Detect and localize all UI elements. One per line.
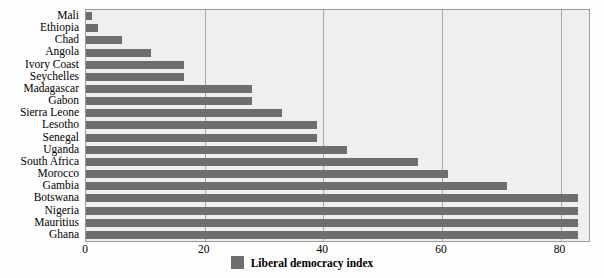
bar [86,85,252,93]
bar-row [86,95,589,107]
bar [86,12,92,20]
chart-legend: Liberal democracy index [0,256,604,269]
category-label: Senegal [43,131,79,143]
bar-row [86,132,589,144]
plot-area [85,9,590,242]
bar-row [86,119,589,131]
bar-row [86,217,589,229]
bar-row [86,107,589,119]
category-label: Chad [55,33,79,45]
category-label: Angola [45,45,79,57]
bar [86,207,578,215]
category-label: Mali [57,9,79,21]
category-label: Seychelles [30,70,79,82]
bar [86,182,507,190]
bar [86,97,252,105]
bar-row [86,205,589,217]
category-label: Sierra Leone [20,106,79,118]
category-label: Botswana [34,191,79,203]
category-label: Gambia [43,179,79,191]
category-label: South Africa [21,155,79,167]
bar [86,231,578,239]
bar-row [86,180,589,192]
bar [86,61,184,69]
bar-row [86,59,589,71]
category-label: Ghana [49,228,79,240]
bar-row [86,144,589,156]
category-label: Ethiopia [40,21,79,33]
bar [86,49,151,57]
category-label: Gabon [48,94,79,106]
bar [86,24,98,32]
category-label: Madagascar [23,82,79,94]
category-label: Mauritius [34,216,79,228]
bar-row [86,229,589,241]
bar [86,121,317,129]
liberal-democracy-index-bar-chart: MaliEthiopiaChadAngolaIvory CoastSeychel… [0,0,604,278]
category-label: Morocco [37,167,79,179]
x-tick-80: 80 [554,243,566,255]
bar [86,73,184,81]
category-label: Nigeria [45,204,79,216]
x-tick-40: 40 [317,243,329,255]
category-axis-labels: MaliEthiopiaChadAngolaIvory CoastSeychel… [0,9,82,242]
bar [86,219,578,227]
bar-row [86,83,589,95]
bar [86,109,282,117]
x-tick-60: 60 [435,243,447,255]
bars-layer [86,10,589,241]
bar-row [86,192,589,204]
bar [86,170,448,178]
bar [86,36,122,44]
category-label: Ivory Coast [25,58,79,70]
legend-swatch-icon [231,256,244,269]
bar [86,146,347,154]
bar-row [86,34,589,46]
bar [86,194,578,202]
bar-row [86,71,589,83]
bar [86,134,317,142]
bar-row [86,168,589,180]
bar-row [86,46,589,58]
bar-row [86,22,589,34]
x-tick-20: 20 [198,243,210,255]
bar [86,158,418,166]
bar-row [86,10,589,22]
legend-label: Liberal democracy index [251,257,374,269]
category-label: Lesotho [42,118,79,130]
category-label: Uganda [43,143,79,155]
x-tick-0: 0 [82,243,88,255]
bar-row [86,156,589,168]
